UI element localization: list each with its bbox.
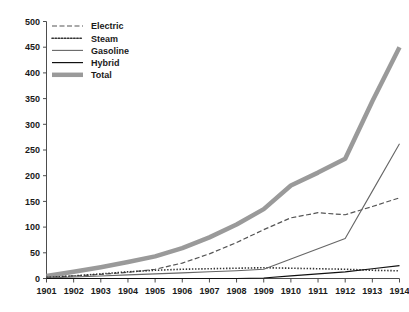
y-tick-label: 500 bbox=[25, 17, 40, 27]
legend-label-steam: Steam bbox=[91, 34, 118, 44]
legend-label-electric: Electric bbox=[91, 21, 124, 31]
series-line-gasoline bbox=[47, 144, 400, 278]
y-tick-label: 0 bbox=[35, 274, 40, 284]
y-axis: 050100150200250300350400450500 bbox=[25, 17, 47, 284]
x-tick-label: 1905 bbox=[145, 286, 165, 296]
x-tick-label: 1902 bbox=[64, 286, 84, 296]
y-tick-label: 350 bbox=[25, 94, 40, 104]
x-tick-label: 1908 bbox=[227, 286, 247, 296]
y-tick-label: 150 bbox=[25, 197, 40, 207]
x-tick-label: 1903 bbox=[91, 286, 111, 296]
series-line-total bbox=[47, 47, 400, 276]
y-tick-label: 100 bbox=[25, 222, 40, 232]
x-axis: 1901190219031904190519061907190819091910… bbox=[36, 279, 409, 296]
x-tick-label: 1909 bbox=[254, 286, 274, 296]
legend-label-total: Total bbox=[91, 70, 112, 80]
legend-label-hybrid: Hybrid bbox=[91, 58, 120, 68]
x-tick-label: 1906 bbox=[172, 286, 192, 296]
x-tick-label: 1911 bbox=[308, 286, 328, 296]
legend-label-gasoline: Gasoline bbox=[91, 46, 129, 56]
x-tick-label: 1904 bbox=[118, 286, 138, 296]
chart-container: 050100150200250300350400450500 190119021… bbox=[0, 0, 409, 312]
x-tick-label: 1901 bbox=[36, 286, 56, 296]
y-tick-label: 450 bbox=[25, 42, 40, 52]
y-tick-label: 200 bbox=[25, 171, 40, 181]
x-tick-label: 1913 bbox=[362, 286, 382, 296]
x-tick-label: 1914 bbox=[389, 286, 409, 296]
line-chart: 050100150200250300350400450500 190119021… bbox=[0, 0, 409, 312]
x-tick-label: 1910 bbox=[281, 286, 301, 296]
y-tick-label: 400 bbox=[25, 68, 40, 78]
chart-legend: ElectricSteamGasolineHybridTotal bbox=[52, 21, 129, 80]
y-tick-label: 300 bbox=[25, 120, 40, 130]
x-tick-label: 1907 bbox=[199, 286, 219, 296]
y-tick-label: 250 bbox=[25, 145, 40, 155]
y-tick-label: 50 bbox=[30, 248, 40, 258]
x-tick-label: 1912 bbox=[335, 286, 355, 296]
series-lines bbox=[47, 47, 400, 278]
